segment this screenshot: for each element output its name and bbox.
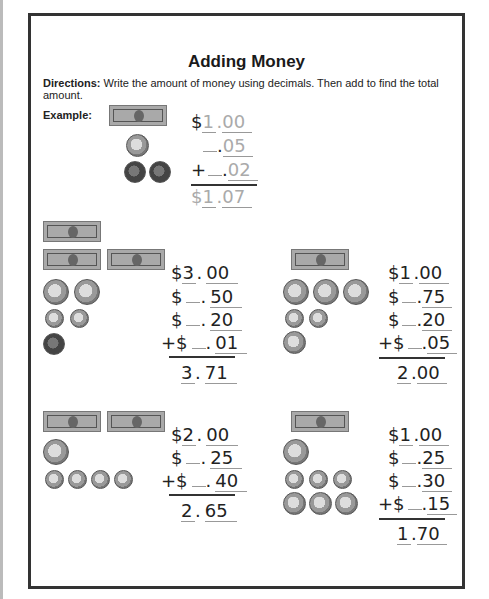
nickel-coin-icon <box>126 134 149 157</box>
directions-label: Directions: <box>43 77 100 89</box>
problem-3-sum-line <box>169 494 235 496</box>
problem-4-total: 1.70 <box>397 524 447 545</box>
quarter-coin-icon <box>43 439 69 465</box>
one-dollar-bill-icon <box>43 249 101 270</box>
dime-coin-icon <box>114 470 133 489</box>
dime-coin-icon <box>91 470 110 489</box>
problem-3-total: 2.65 <box>181 501 237 522</box>
problem-2-line-2: $.75 <box>388 287 452 308</box>
dime-coin-icon <box>70 309 89 328</box>
problem-1-line-2: $.50 <box>171 287 242 308</box>
quarter-coin-icon <box>283 439 309 465</box>
problem-2-line-1: $1.00 <box>388 263 449 284</box>
page-title: Adding Money <box>31 52 462 72</box>
problem-1-total: 3.71 <box>181 363 237 384</box>
one-dollar-bill-icon <box>291 249 349 270</box>
dime-coin-icon <box>285 309 304 328</box>
example-line-1: $1.00 <box>191 112 252 133</box>
dime-coin-icon <box>309 470 328 489</box>
dime-coin-icon <box>45 470 64 489</box>
penny-coin-icon <box>149 161 171 183</box>
problem-2-line-4: +$.05 <box>378 333 457 354</box>
problem-4-line-2: $.25 <box>388 448 452 469</box>
penny-coin-icon <box>43 333 65 355</box>
nickel-coin-icon <box>309 492 332 515</box>
example-line-3: +.02 <box>191 160 258 181</box>
example-line-2: .05 <box>203 136 253 157</box>
problem-2-sum-line <box>379 357 445 359</box>
worksheet: Adding Money Directions: Write the amoun… <box>28 13 465 589</box>
example-total: $1.07 <box>191 187 252 208</box>
penny-coin-icon <box>124 161 146 183</box>
quarter-coin-icon <box>43 279 69 305</box>
problem-1-sum-line <box>169 356 235 358</box>
quarter-coin-icon <box>283 279 309 305</box>
page-edge <box>0 0 3 599</box>
nickel-coin-icon <box>283 492 306 515</box>
problem-1-line-4: +$.01 <box>161 333 247 354</box>
problem-4-sum-line <box>379 518 445 520</box>
problem-4-line-4: +$.15 <box>378 494 457 515</box>
nickel-coin-icon <box>283 331 306 354</box>
one-dollar-bill-icon <box>43 221 101 242</box>
one-dollar-bill-icon <box>291 411 349 432</box>
dime-coin-icon <box>68 470 87 489</box>
quarter-coin-icon <box>74 279 100 305</box>
directions-text: Write the amount of money using decimals… <box>43 77 439 101</box>
one-dollar-bill-icon <box>43 411 101 432</box>
problem-3-line-2: $.25 <box>171 448 242 469</box>
dime-coin-icon <box>285 470 304 489</box>
problem-2-line-3: $.20 <box>388 310 452 331</box>
one-dollar-bill-icon <box>109 105 167 126</box>
dime-coin-icon <box>45 309 64 328</box>
problem-3-line-1: $2.00 <box>171 425 238 446</box>
one-dollar-bill-icon <box>107 411 165 432</box>
quarter-coin-icon <box>343 279 369 305</box>
problem-3-line-3: +$.40 <box>161 471 247 492</box>
problem-1-line-1: $3.00 <box>171 263 238 284</box>
directions: Directions: Write the amount of money us… <box>43 77 453 101</box>
problem-4-line-3: $.30 <box>388 471 452 492</box>
quarter-coin-icon <box>313 279 339 305</box>
problem-2-total: 2.00 <box>397 363 447 384</box>
one-dollar-bill-icon <box>107 249 165 270</box>
problem-4-line-1: $1.00 <box>388 425 449 446</box>
problem-1-line-3: $.20 <box>171 310 242 331</box>
nickel-coin-icon <box>335 492 358 515</box>
dime-coin-icon <box>333 470 352 489</box>
example-label: Example: <box>43 109 92 121</box>
dime-coin-icon <box>309 309 328 328</box>
